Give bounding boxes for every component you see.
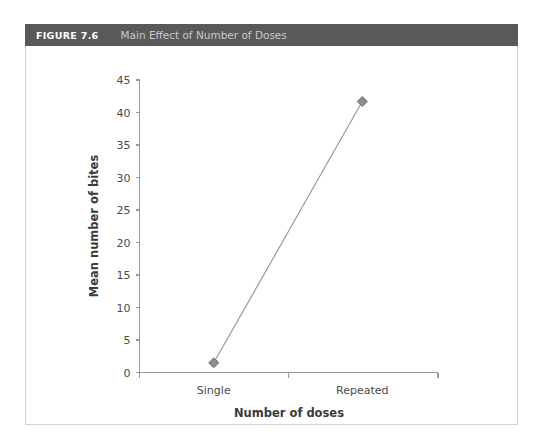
y-tick-label: 45 <box>117 74 131 87</box>
y-axis-ticks: 051015202530354045 <box>117 74 140 380</box>
data-series <box>209 96 368 367</box>
y-tick-label: 35 <box>117 139 131 152</box>
y-axis-title: Mean number of bites <box>87 155 101 298</box>
x-axis-title: Number of doses <box>234 406 344 420</box>
axes-group <box>140 80 439 373</box>
x-tick-label: Repeated <box>336 384 388 397</box>
figure-header-bar: FIGURE 7.6 Main Effect of Number of Dose… <box>25 24 518 46</box>
y-tick-label: 30 <box>117 172 131 185</box>
x-axis-ticks <box>140 373 439 378</box>
figure-container: FIGURE 7.6 Main Effect of Number of Dose… <box>25 24 518 425</box>
y-tick-label: 25 <box>117 204 131 217</box>
data-point-marker <box>357 96 367 106</box>
figure-caption: Main Effect of Number of Doses <box>120 29 286 41</box>
y-tick-label: 20 <box>117 237 131 250</box>
y-tick-label: 10 <box>117 302 131 315</box>
y-tick-label: 15 <box>117 269 131 282</box>
y-tick-label: 40 <box>117 107 131 120</box>
figure-number-label: FIGURE 7.6 <box>36 30 98 41</box>
x-tick-label: Single <box>197 384 231 397</box>
y-tick-label: 5 <box>124 334 131 347</box>
figure-body-panel: 051015202530354045 SingleRepeated Mean n… <box>25 46 518 425</box>
chart-area: 051015202530354045 SingleRepeated Mean n… <box>26 46 517 423</box>
x-axis-tick-labels: SingleRepeated <box>197 384 389 397</box>
y-tick-label: 0 <box>124 367 131 380</box>
series-line <box>214 101 363 362</box>
data-point-marker <box>209 358 219 368</box>
line-chart: 051015202530354045 SingleRepeated Mean n… <box>26 46 517 423</box>
